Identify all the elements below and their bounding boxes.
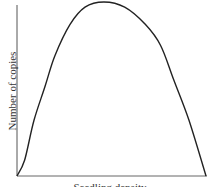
data-curve [17,2,206,176]
chart: Number of copies Seedling density [0,0,207,187]
x-axis-label: Seedling density [50,181,170,187]
y-axis-label: Number of copies [5,41,19,141]
chart-plot [0,0,207,187]
